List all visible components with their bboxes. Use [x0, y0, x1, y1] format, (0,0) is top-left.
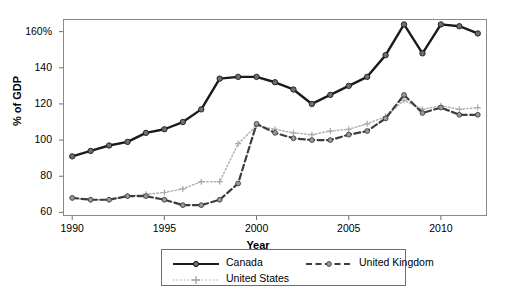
- y-tick-label: 60: [8, 206, 52, 217]
- y-tick-label: 100: [8, 134, 52, 145]
- x-axis-ticks: [72, 216, 441, 220]
- x-tick-label: 2005: [324, 223, 374, 234]
- y-tick-label: 160%: [8, 26, 52, 37]
- x-tick-label: 1995: [139, 223, 189, 234]
- chart-legend: Canada United Kingdom United States: [161, 249, 406, 286]
- legend-entry-canada: Canada: [172, 254, 263, 270]
- legend-swatch-canada: [172, 256, 220, 268]
- x-tick-label: 2000: [232, 223, 282, 234]
- y-tick-label: 120: [8, 98, 52, 109]
- x-tick-label: 1990: [47, 223, 97, 234]
- y-tick-label: 80: [8, 170, 52, 181]
- legend-label-united-kingdom: United Kingdom: [359, 256, 434, 268]
- series-united-states: [69, 97, 481, 202]
- series-united-kingdom: [70, 93, 480, 208]
- legend-entry-united-states: United States: [172, 270, 289, 286]
- legend-entry-united-kingdom: United Kingdom: [305, 254, 434, 270]
- series-canada: [70, 22, 481, 159]
- legend-label-canada: Canada: [226, 256, 263, 268]
- x-tick-label: 2010: [416, 223, 466, 234]
- legend-label-united-states: United States: [226, 272, 289, 284]
- y-tick-label: 140: [8, 62, 52, 73]
- y-axis-ticks: [59, 32, 63, 213]
- legend-swatch-united-states: [172, 272, 220, 284]
- legend-swatch-united-kingdom: [305, 256, 353, 268]
- chart-figure: % of GDP Year 6080100120140160% 19901995…: [0, 0, 516, 297]
